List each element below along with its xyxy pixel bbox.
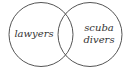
set-label-scuba-line2: divers	[83, 34, 114, 45]
venn-diagram: lawyers scuba divers	[0, 0, 125, 69]
set-label-lawyers: lawyers	[14, 28, 53, 39]
set-label-scuba-line1: scuba	[84, 22, 114, 33]
